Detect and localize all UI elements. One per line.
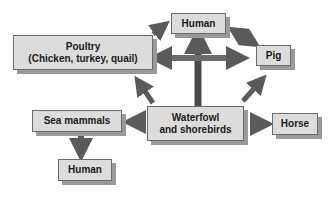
node-human-bottom-label: Human: [68, 164, 102, 176]
arrow-human-pig: [236, 32, 252, 42]
arrow-poultry-to-human: [153, 27, 162, 34]
node-pig-label: Pig: [266, 50, 282, 62]
node-poultry: Poultry (Chicken, turkey, quail): [13, 35, 153, 70]
arrow-waterfowl-to-pig: [243, 82, 260, 101]
node-poultry-title: Poultry: [28, 41, 137, 53]
node-sea-mammals: Sea mammals: [32, 110, 122, 132]
node-human-top: Human: [171, 13, 226, 34]
node-poultry-subtitle: (Chicken, turkey, quail): [28, 53, 137, 65]
node-sea-mammals-label: Sea mammals: [44, 115, 111, 127]
node-pig: Pig: [256, 45, 291, 66]
node-horse-label: Horse: [281, 118, 309, 130]
node-horse: Horse: [272, 113, 318, 135]
node-waterfowl-line2: and shorebirds: [159, 124, 231, 136]
node-waterfowl: Waterfowl and shorebirds: [147, 106, 244, 141]
node-human-bottom: Human: [58, 159, 112, 181]
arrows-layer: [0, 0, 334, 197]
node-human-top-label: Human: [182, 18, 216, 30]
node-waterfowl-line1: Waterfowl: [159, 112, 231, 124]
arrow-waterfowl-to-poultry: [140, 84, 153, 103]
